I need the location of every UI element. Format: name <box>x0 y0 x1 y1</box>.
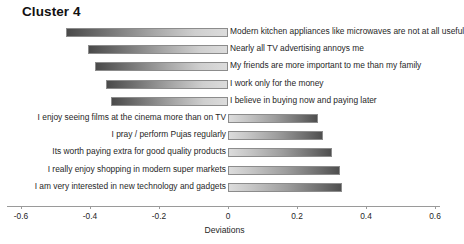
bar <box>228 166 340 175</box>
bar-row: Its worth paying extra for good quality … <box>0 145 447 162</box>
bar-row: I work only for the money <box>0 77 447 94</box>
bar <box>106 80 228 89</box>
bar-category-label: I work only for the money <box>230 76 324 91</box>
chart-title: Cluster 4 <box>22 4 81 19</box>
x-axis-tick-label: 0.4 <box>360 211 372 221</box>
bar-row: I really enjoy shopping in modern super … <box>0 163 447 180</box>
bar <box>228 114 318 123</box>
x-axis: -0.6-0.4-0.200.20.40.6 Deviations <box>0 206 447 244</box>
bar-row: I pray / perform Pujas regularly <box>0 128 447 145</box>
bar <box>228 131 323 140</box>
bar-category-label: Nearly all TV advertising annoys me <box>230 41 364 56</box>
x-axis-tick-mark <box>297 206 298 209</box>
bar-category-label: I am very interested in new technology a… <box>35 179 226 194</box>
bar-category-label: I enjoy seeing films at the cinema more … <box>38 110 226 125</box>
x-axis-tick-mark <box>90 206 91 209</box>
bar <box>111 97 228 106</box>
x-axis-tick-label: -0.6 <box>14 211 28 221</box>
bar <box>95 62 228 71</box>
bar-category-label: My friends are more important to me than… <box>230 58 421 73</box>
bar <box>66 28 228 37</box>
x-axis-tick-label: 0.6 <box>429 211 441 221</box>
x-axis-tick-mark <box>366 206 367 209</box>
x-axis-tick-label: -0.2 <box>152 211 166 221</box>
bar-row: Modern kitchen appliances like microwave… <box>0 25 447 42</box>
bar <box>88 45 228 54</box>
bar-row: Nearly all TV advertising annoys me <box>0 42 447 59</box>
x-axis-tick-mark <box>159 206 160 209</box>
bar-category-label: Its worth paying extra for good quality … <box>52 144 226 159</box>
x-axis-tick-mark <box>228 206 229 209</box>
bar <box>228 183 342 192</box>
bar-category-label: Modern kitchen appliances like microwave… <box>230 24 464 39</box>
bar-row: I enjoy seeing films at the cinema more … <box>0 111 447 128</box>
bar-category-label: I really enjoy shopping in modern super … <box>48 162 226 177</box>
bar-category-label: I believe in buying now and paying later <box>230 93 377 108</box>
x-axis-tick-label: 0.2 <box>291 211 303 221</box>
x-axis-line <box>7 206 440 207</box>
bar <box>228 148 332 157</box>
plot-area: Modern kitchen appliances like microwave… <box>0 22 447 206</box>
x-axis-tick-label: -0.4 <box>83 211 97 221</box>
bar-row: My friends are more important to me than… <box>0 59 447 76</box>
x-axis-tick-mark <box>21 206 22 209</box>
bar-row: I believe in buying now and paying later <box>0 94 447 111</box>
x-axis-tick-mark <box>435 206 436 209</box>
x-axis-tick-label: 0 <box>226 211 231 221</box>
x-axis-title: Deviations <box>0 225 447 235</box>
bar-row: I am very interested in new technology a… <box>0 180 447 197</box>
x-axis-title-label: Deviations <box>204 225 244 235</box>
bar-category-label: I pray / perform Pujas regularly <box>111 127 226 142</box>
